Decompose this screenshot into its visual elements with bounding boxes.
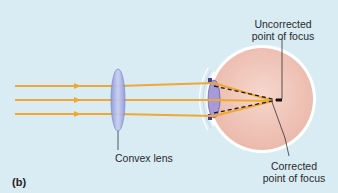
eyeball <box>200 45 317 153</box>
panel-label: (b) <box>12 176 26 188</box>
incoming-rays <box>15 83 118 117</box>
convex-lens <box>111 69 125 131</box>
uncorrected-focus-label: Uncorrected point of focus <box>248 18 318 42</box>
corrected-focus-label: Corrected point of focus <box>259 160 329 184</box>
corrected-label-line2: point of focus <box>259 172 329 184</box>
corrected-label-line1: Corrected <box>259 160 329 172</box>
uncorrected-label-line2: point of focus <box>248 30 318 42</box>
convex-lens-label: Convex lens <box>115 152 173 164</box>
uncorrected-label-line1: Uncorrected <box>248 18 318 30</box>
uncorrected-focus-marker <box>276 99 282 102</box>
